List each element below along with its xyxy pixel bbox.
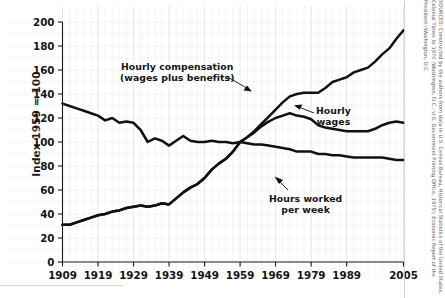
- y-axis-tick-label: 180: [33, 40, 55, 52]
- annotation-hourly-compensation: Hourly compensation (wages plus benefits…: [120, 61, 234, 84]
- annotation-hours-worked-line2: per week: [269, 204, 342, 215]
- source-note: SOURCES: Constructed by the authors from…: [404, 0, 445, 298]
- y-axis-tick-label: 40: [40, 208, 54, 220]
- x-axis-tick-label: 1979: [297, 269, 326, 281]
- y-axis-tick-label: 0: [47, 256, 54, 268]
- x-axis-tick-label: 1989: [332, 269, 361, 281]
- chart-plot-area: 0204060801001201401601802001909191919291…: [0, 0, 445, 298]
- y-axis-tick-label: 120: [33, 112, 55, 124]
- x-axis-tick-label: 1939: [155, 269, 184, 281]
- leader-arrow-wages: [294, 105, 303, 110]
- annotation-hourly-wages-line1: Hourly: [316, 105, 351, 116]
- y-axis-tick-label: 200: [33, 16, 55, 28]
- annotation-hourly-compensation-line1: Hourly compensation: [120, 61, 234, 72]
- annotation-hours-worked: Hours worked per week: [269, 193, 342, 216]
- x-axis-tick-label: 1969: [261, 269, 290, 281]
- y-axis-tick-label: 60: [40, 184, 54, 196]
- annotation-hourly-wages: Hourly wages: [316, 105, 351, 128]
- axes-layer: [58, 22, 404, 267]
- chart-figure: Index 1959 = 100 02040608010012014016018…: [0, 0, 445, 298]
- x-axis-tick-label: 1959: [226, 269, 255, 281]
- x-axis-tick-label: 1919: [84, 269, 113, 281]
- leader-arrow-compensation: [244, 86, 253, 92]
- x-axis-tick-label: 1909: [48, 269, 77, 281]
- annotation-hourly-compensation-line2: (wages plus benefits): [120, 72, 234, 83]
- y-axis-tick-label: 100: [33, 136, 55, 148]
- y-axis-tick-label: 20: [40, 232, 54, 244]
- y-axis-tick-label: 80: [40, 160, 54, 172]
- source-note-container: SOURCES: Constructed by the authors from…: [404, 0, 445, 298]
- x-axis-tick-label: 1949: [190, 269, 219, 281]
- x-axis-tick-label: 1929: [119, 269, 148, 281]
- y-axis-tick-label: 140: [33, 88, 55, 100]
- annotation-hourly-wages-line2: wages: [316, 116, 351, 127]
- y-axis-tick-label: 160: [33, 64, 55, 76]
- annotation-hours-worked-line1: Hours worked: [269, 193, 342, 204]
